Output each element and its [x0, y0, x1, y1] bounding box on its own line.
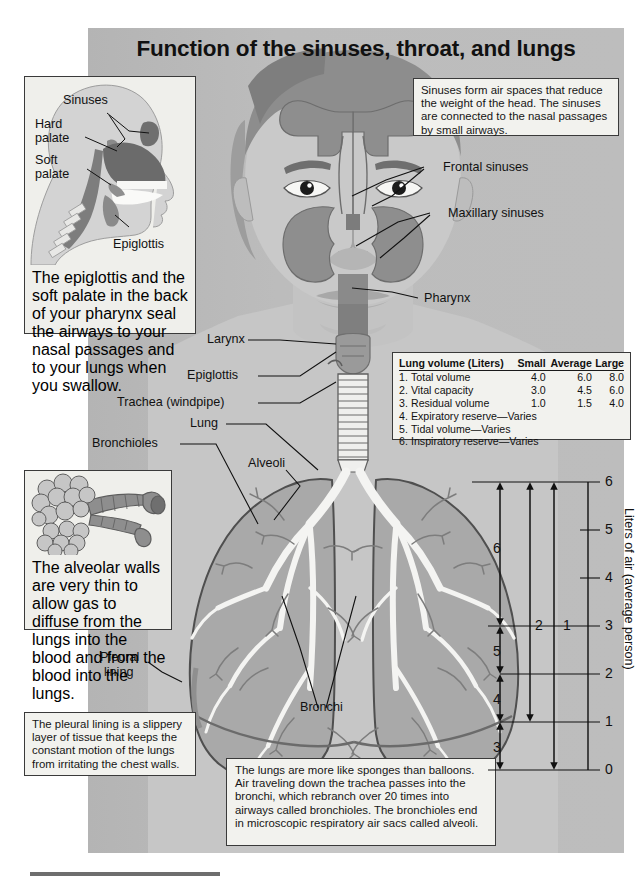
alveoli-inset: The alveolar walls are very thin to allo… — [24, 470, 172, 630]
ytick-1: 1 — [605, 713, 613, 729]
label-bronchi: Bronchi — [300, 700, 343, 714]
alveoli-inset-caption: The alveolar walls are very thin to allo… — [32, 559, 166, 703]
table-header-average: Average — [546, 357, 592, 371]
footer-rule — [30, 872, 220, 876]
row-num: 4. — [399, 409, 411, 422]
label-frontal-sinuses: Frontal sinuses — [443, 160, 528, 174]
table-row: 5. Tidal volume—Varies — [399, 422, 624, 435]
lung-volume-table: Lung volume (Liters) Small Average Large… — [392, 352, 631, 440]
pleural-lining-box: The pleural lining is a slippery layer o… — [24, 712, 196, 776]
row-num: 3. — [399, 397, 411, 410]
inset-label-soft-palate-line1: Soft — [35, 153, 57, 167]
label-lung: Lung — [190, 416, 218, 430]
table-header-large: Large — [592, 357, 624, 371]
table-header-volume: Lung volume (Liters) — [399, 357, 514, 371]
table-row: 4. Expiratory reserve—Varies — [399, 409, 624, 422]
sinus-note-text: Sinuses form air spaces that reduce the … — [421, 84, 611, 137]
arrow-label-3: 3 — [493, 739, 501, 755]
label-maxillary-sinuses: Maxillary sinuses — [448, 206, 544, 220]
table-row: 2. Vital capacity 3.0 4.5 6.0 — [399, 384, 624, 397]
row-num: 2. — [399, 384, 411, 397]
head-cross-section-inset: Sinuses Hard palate Soft palate Epiglott… — [24, 76, 196, 334]
ytick-4: 4 — [605, 569, 613, 585]
label-trachea: Trachea (windpipe) — [117, 395, 224, 409]
row-average: 1.5 — [546, 397, 592, 410]
row-name: Tidal volume—Varies — [411, 422, 624, 435]
sinus-note-box: Sinuses form air spaces that reduce the … — [413, 78, 619, 136]
label-bronchioles: Bronchioles — [92, 436, 158, 450]
inset-label-epiglottis: Epiglottis — [113, 237, 164, 251]
table-row: 6. Inspiratory reserve—Varies — [399, 435, 624, 448]
ytick-5: 5 — [605, 521, 613, 537]
inset-label-sinuses: Sinuses — [63, 93, 108, 107]
arrow-label-1: 1 — [563, 617, 571, 633]
table-row: 3. Residual volume 1.0 1.5 4.0 — [399, 397, 624, 410]
row-name: Total volume — [411, 371, 514, 384]
arrow-label-5: 5 — [493, 643, 501, 659]
row-large: 6.0 — [592, 384, 624, 397]
row-num: 6. — [399, 435, 411, 448]
page-title: Function of the sinuses, throat, and lun… — [96, 36, 616, 62]
ytick-2: 2 — [605, 665, 613, 681]
head-inset-caption: The epiglottis and the soft palate in th… — [32, 269, 189, 395]
nasal-passage-block — [346, 214, 360, 230]
row-num: 5. — [399, 422, 411, 435]
row-average: 6.0 — [546, 371, 592, 384]
figure-root: Function of the sinuses, throat, and lun… — [0, 0, 644, 890]
row-name: Residual volume — [411, 397, 514, 410]
label-epiglottis: Epiglottis — [187, 368, 238, 382]
pleural-lining-text: The pleural lining is a slippery layer o… — [32, 718, 188, 771]
table-row: 1. Total volume 4.0 6.0 8.0 — [399, 371, 624, 384]
lungs-note-text: The lungs are more like sponges than bal… — [235, 764, 487, 830]
row-average: 4.5 — [546, 384, 592, 397]
trachea-shape — [338, 374, 368, 472]
arrow-label-4: 4 — [493, 691, 501, 707]
row-large: 4.0 — [592, 397, 624, 410]
arrow-label-6: 6 — [493, 540, 501, 556]
label-pharynx: Pharynx — [424, 291, 470, 305]
ytick-6: 6 — [605, 473, 613, 489]
row-small: 1.0 — [514, 397, 545, 410]
row-name: Expiratory reserve—Varies — [411, 409, 624, 422]
inset-label-hard-palate-line1: Hard — [35, 117, 62, 131]
volume-axis-title: Liters of air (average person) — [622, 508, 636, 670]
table-header-small: Small — [514, 357, 545, 371]
lungs-note-box: The lungs are more like sponges than bal… — [226, 758, 496, 846]
row-small: 3.0 — [514, 384, 545, 397]
ytick-0: 0 — [605, 761, 613, 777]
label-larynx: Larynx — [207, 332, 245, 346]
row-small: 4.0 — [514, 371, 545, 384]
volume-ticks-short — [580, 530, 600, 578]
ytick-3: 3 — [605, 617, 613, 633]
row-num: 1. — [399, 371, 411, 384]
inset-label-soft-palate-line2: palate — [35, 167, 69, 181]
alveoli-cluster-drawing — [25, 473, 171, 555]
row-name: Vital capacity — [411, 384, 514, 397]
inset-label-hard-palate-line2: palate — [35, 131, 69, 145]
row-large: 8.0 — [592, 371, 624, 384]
label-alveoli: Alveoli — [248, 456, 285, 470]
row-name: Inspiratory reserve—Varies — [411, 435, 624, 448]
arrow-label-2: 2 — [535, 617, 543, 633]
